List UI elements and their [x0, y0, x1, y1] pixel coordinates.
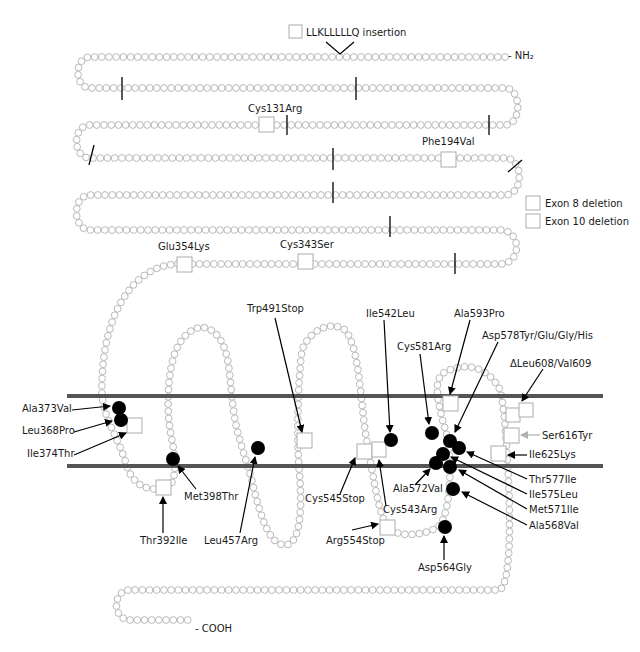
mutation-label: Cys131Arg: [248, 103, 302, 114]
mutation-label: Ala593Pro: [454, 308, 505, 319]
mutation-label: Leu368Pro: [22, 425, 75, 436]
mutation-label: Thr577Ile: [528, 474, 577, 485]
legend-swatch-exon10: [526, 214, 540, 228]
mutation-label: Trp491Stop: [246, 303, 304, 314]
mutation-label: Cys581Arg: [397, 341, 451, 352]
mutation-label: Cys543Arg: [383, 504, 437, 515]
insertion-marker: LLKLLLLLQ insertion: [289, 25, 406, 54]
mutation-label: Leu457Arg: [204, 535, 258, 546]
mutation-label: Ala572Val: [393, 483, 443, 494]
mutation-label: Cys545Stop: [305, 493, 365, 504]
protein-topology-diagram: LLKLLLLLQ insertion - NH₂ - COOH Exon 8 …: [0, 0, 640, 652]
mutation-label: Asp578Tyr/Glu/Gly/His: [482, 330, 593, 341]
mutation-label: Ile575Leu: [529, 489, 578, 500]
legend-exon8-label: Exon 8 deletion: [545, 198, 623, 209]
mutation-label: Glu354Lys: [158, 241, 210, 252]
mutation-label: Thr392Ile: [139, 535, 188, 546]
mutation-label: Phe194Val: [422, 136, 475, 147]
legend: Exon 8 deletion Exon 10 deletion: [526, 196, 629, 228]
mutation-label: Ile374Thr: [27, 448, 75, 459]
n-terminus-label: - NH₂: [508, 50, 534, 61]
mutation-label: Ile625Lys: [529, 449, 576, 460]
legend-exon10-label: Exon 10 deletion: [545, 216, 629, 227]
mutation-label: Met398Thr: [184, 491, 239, 502]
mutation-label: ΔLeu608/Val609: [510, 358, 591, 369]
c-terminus-label: - COOH: [195, 623, 232, 634]
mutation-label: Met571Ile: [529, 504, 579, 515]
insertion-label: LLKLLLLLQ insertion: [306, 27, 406, 38]
mutation-label: Ile542Leu: [366, 308, 415, 319]
mutation-label: Arg554Stop: [326, 535, 385, 546]
mutation-label: Cys343Ser: [280, 239, 335, 250]
mutation-label: Ala373Val: [22, 403, 72, 414]
mutation-label: Asp564Gly: [418, 562, 472, 573]
legend-swatch-exon8: [526, 196, 540, 210]
mutation-label: Ala568Val: [529, 520, 579, 531]
mutation-label: Ser616Tyr: [542, 430, 593, 441]
